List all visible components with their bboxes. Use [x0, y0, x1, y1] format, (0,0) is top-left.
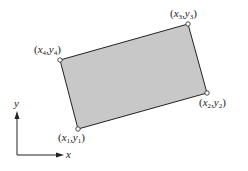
vertex-2-node: [205, 91, 209, 95]
vertex-3-label: (x3,y3): [170, 7, 197, 21]
vertex-4-label: (x4,y4): [34, 43, 61, 57]
vertex-3-node: [186, 22, 190, 26]
vertex-1-label: (x1,y1): [58, 131, 85, 145]
y-axis-arrow-icon: [15, 111, 20, 119]
x-axis-label: x: [65, 148, 71, 160]
quadrilateral-diagram: (x1,y1) (x2,y2) (x3,y3) (x4,y4) y x: [0, 0, 248, 171]
rectangle-element: [60, 24, 207, 129]
y-axis-label: y: [13, 97, 19, 109]
x-axis-arrow-icon: [56, 153, 64, 158]
vertex-2-label: (x2,y2): [199, 96, 226, 110]
vertex-4-node: [58, 58, 62, 62]
